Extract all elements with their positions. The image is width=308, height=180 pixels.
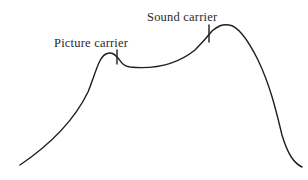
response-curve-diagram: Picture carrier Sound carrier [0,0,308,180]
picture-carrier-label: Picture carrier [54,37,128,50]
response-curve-svg [0,0,308,180]
sound-carrier-label: Sound carrier [147,11,217,24]
